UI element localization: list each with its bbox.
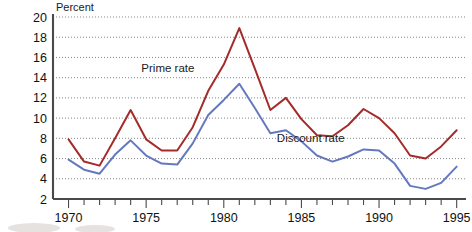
series-label-discount-rate: Discount rate [277, 132, 345, 144]
x-tick-label-1970: 1970 [55, 211, 83, 225]
x-tick-label-1990: 1990 [365, 211, 393, 225]
y-tick-label-8: 8 [40, 132, 47, 146]
chart-canvas: 2468101214161820 19701975198019851990199… [0, 0, 472, 232]
y-tick-label-20: 20 [33, 11, 47, 25]
y-tick-label-2: 2 [40, 193, 47, 207]
x-tick-label-1980: 1980 [210, 211, 238, 225]
interest-rate-line-chart: 2468101214161820 19701975198019851990199… [0, 0, 472, 232]
series-label-prime-rate: Prime rate [141, 62, 194, 74]
x-tick-label-1995: 1995 [443, 211, 471, 225]
y-tick-label-4: 4 [40, 172, 47, 186]
y-tick-label-18: 18 [33, 31, 47, 45]
y-tick-label-6: 6 [40, 152, 47, 166]
y-tick-label-12: 12 [33, 91, 47, 105]
x-tick-label-1975: 1975 [132, 211, 160, 225]
y-axis-title: Percent [56, 1, 94, 13]
y-tick-label-10: 10 [33, 112, 47, 126]
x-tick-label-1985: 1985 [288, 211, 316, 225]
y-tick-label-14: 14 [33, 71, 47, 85]
y-tick-label-16: 16 [33, 51, 47, 65]
